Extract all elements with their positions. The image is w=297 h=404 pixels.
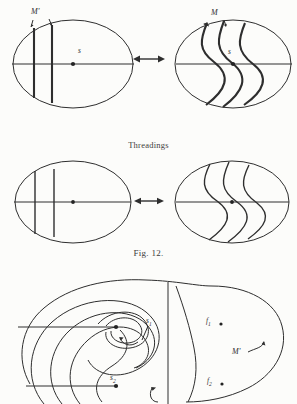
- right-lobe-boundary: [176, 286, 196, 402]
- outer-region-boundary: [22, 280, 284, 402]
- label-m-prime-bottom: M': [232, 348, 240, 356]
- label-f2: f2: [207, 377, 212, 387]
- figure-caption: Fig. 12.: [0, 249, 297, 258]
- left-center-dot: [71, 62, 75, 66]
- figure-middle-svg: [0, 158, 297, 246]
- left-center-dot-2: [71, 200, 75, 204]
- s2-dot: [114, 384, 118, 388]
- right-disc-curved-threads-2: [175, 161, 289, 243]
- label-m-top-right: M: [211, 9, 218, 17]
- left-arrowhead-1: [31, 24, 34, 27]
- right-center-dot-2: [230, 200, 234, 204]
- m-prime-arrow: [248, 342, 264, 352]
- left-disc-straight-threads-2: [14, 161, 131, 243]
- bottom-curved-arrow: [150, 388, 158, 402]
- s1-dot: [114, 325, 118, 329]
- label-s-top-right: s: [228, 48, 231, 56]
- figure-bottom-svg: [0, 268, 297, 404]
- left-disc-straight-threads: [12, 19, 134, 108]
- double-arrow-head-right: [158, 56, 165, 63]
- figure-page: M' s M s Threadings: [0, 0, 297, 404]
- figure-top: [0, 6, 297, 134]
- figure-top-svg: [0, 6, 297, 134]
- section-label-threadings: Threadings: [0, 141, 297, 150]
- figure-bottom: [0, 268, 297, 404]
- relation-double-arrow-2: [134, 198, 164, 204]
- double-arrow-head-left: [133, 56, 140, 63]
- s1-arrowhead: [119, 337, 124, 341]
- label-s1: s1: [146, 317, 152, 327]
- f2-dot: [220, 382, 223, 385]
- label-s-top-left: s: [78, 47, 81, 55]
- f1-dot: [219, 322, 222, 325]
- label-m-prime-top-left: M': [31, 8, 39, 16]
- spiral-arm-2: [51, 313, 155, 404]
- right-disc-curved-threads: [175, 20, 292, 108]
- spiral-arm-3: [70, 327, 148, 404]
- running-head: [0, 0, 297, 3]
- double-arrow-head-right-2: [157, 198, 164, 204]
- double-arrow-head-left-2: [134, 198, 141, 204]
- right-center-dot: [231, 62, 235, 66]
- label-f1: f1: [206, 317, 211, 327]
- label-s2: s2: [110, 374, 116, 384]
- relation-double-arrow: [133, 56, 165, 63]
- median-s-curve: [97, 330, 127, 402]
- figure-middle: [0, 158, 297, 246]
